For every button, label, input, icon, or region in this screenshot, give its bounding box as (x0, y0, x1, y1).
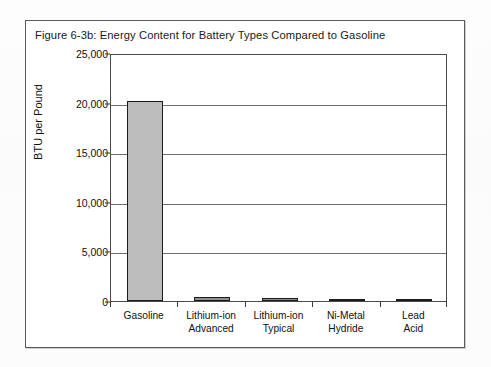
x-axis-label-line: Lithium-ion (254, 310, 304, 321)
scanned-figure-page: Figure 6-3b: Energy Content for Battery … (0, 0, 491, 367)
plot-area (110, 54, 447, 302)
x-axis-label-line: Acid (403, 323, 423, 334)
figure-frame: Figure 6-3b: Energy Content for Battery … (25, 20, 465, 348)
x-axis-tick-mark (446, 302, 447, 307)
x-axis-label-line: Typical (263, 323, 295, 334)
bar-lithium-ion-advanced (194, 297, 230, 301)
y-axis-tick-labels: 05,00010,00015,00020,00025,000 (46, 54, 108, 302)
x-axis-label-line: Ni-Metal (327, 310, 365, 321)
x-axis-label-line: Lithium-ion (186, 310, 236, 321)
x-axis-tick-mark (177, 302, 178, 307)
x-axis-label-line: Gasoline (124, 310, 164, 321)
x-axis-tick-labels: GasolineLithium-ionAdvancedLithium-ionTy… (110, 310, 447, 344)
x-axis-label-line: Hydride (328, 323, 363, 334)
x-axis-tick-mark (312, 302, 313, 307)
bar-gasoline (127, 101, 163, 301)
y-axis-tick-label: 15,000 (52, 147, 108, 159)
x-axis-tick-mark (110, 302, 111, 307)
x-axis-tick-label: Gasoline (124, 310, 164, 323)
y-axis-tick-label: 25,000 (52, 48, 108, 60)
y-axis-tick-label: 20,000 (52, 98, 108, 110)
x-axis-label-line: Lead (402, 310, 425, 321)
x-axis-label-line: Advanced (188, 323, 233, 334)
x-axis-tick-mark (245, 302, 246, 307)
x-axis-tick-label: Lithium-ionTypical (254, 310, 304, 335)
bar-ni-metal-hydride (329, 299, 365, 302)
x-axis-tick-marks (110, 302, 447, 308)
bar-lead-acid (396, 299, 432, 302)
bar-lithium-ion-typical (262, 298, 298, 301)
x-axis-tick-label: LeadAcid (402, 310, 425, 335)
x-axis-tick-label: Lithium-ionAdvanced (186, 310, 236, 335)
y-axis-tick-label: 5,000 (52, 246, 108, 258)
y-axis-tick-label: 10,000 (52, 197, 108, 209)
y-axis-tick-label: 0 (52, 296, 108, 308)
x-axis-tick-label: Ni-MetalHydride (327, 310, 365, 335)
x-axis-tick-mark (380, 302, 381, 307)
chart-title: Figure 6-3b: Energy Content for Battery … (35, 29, 385, 41)
y-axis-title: BTU per Pound (32, 42, 44, 202)
